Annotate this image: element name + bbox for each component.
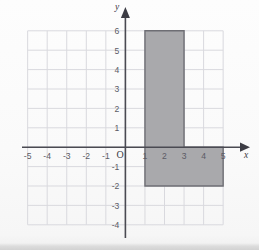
x-tick-label: 3 <box>182 151 187 161</box>
y-tick-label: -3 <box>112 201 120 211</box>
x-axis-label: x <box>243 150 249 160</box>
y-tick-label: -1 <box>112 162 120 172</box>
origin-label: O <box>116 149 123 160</box>
y-tick-label: -2 <box>112 181 120 191</box>
y-axis-arrow-icon <box>121 7 130 18</box>
x-tick-label: -2 <box>82 151 90 161</box>
x-tick-label: 4 <box>201 151 206 161</box>
x-tick-label: -4 <box>43 151 51 161</box>
x-tick-label: -5 <box>24 151 32 161</box>
y-tick-label: 3 <box>115 84 120 94</box>
x-tick-label: 5 <box>221 151 226 161</box>
figure-canvas: -5-4-3-2-112345 654321-1-2-3-4 O x y <box>0 0 259 250</box>
y-tick-label: 6 <box>115 26 120 36</box>
y-tick-label: 2 <box>115 104 120 114</box>
x-tick-label: -3 <box>63 151 71 161</box>
y-tick-label: 1 <box>115 123 120 133</box>
x-tick-label: 2 <box>162 151 167 161</box>
x-tick-label: 1 <box>143 151 148 161</box>
y-tick-label: -4 <box>112 220 120 230</box>
page-edge-shadow <box>0 243 259 250</box>
x-tick-label: -1 <box>102 151 110 161</box>
coordinate-plane: -5-4-3-2-112345 654321-1-2-3-4 O x y <box>0 0 259 250</box>
coordinate-plane-svg: -5-4-3-2-112345 654321-1-2-3-4 O x y <box>0 0 259 250</box>
y-tick-label: 4 <box>115 65 120 75</box>
y-tick-label: 5 <box>115 46 120 56</box>
axes <box>22 7 250 238</box>
y-axis-label: y <box>114 2 120 12</box>
